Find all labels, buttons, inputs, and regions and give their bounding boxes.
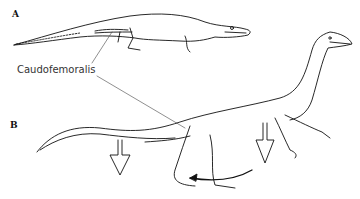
down-arrow-body: [256, 123, 274, 163]
illustration: [0, 0, 360, 199]
dinosaur-drawing: [37, 32, 352, 188]
down-arrow-tail: [110, 140, 130, 175]
figure: A B Caudofemoralis: [0, 0, 360, 199]
crocodile-drawing: [14, 14, 250, 52]
curved-arrow: [190, 170, 252, 180]
